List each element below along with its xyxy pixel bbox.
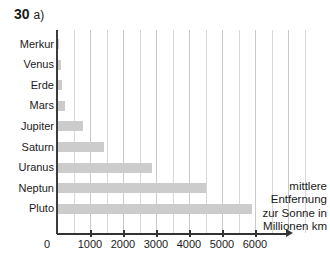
axis-annotation-line-0: mittlere [231, 180, 327, 193]
axis-tick [156, 230, 158, 237]
bar-pluto [57, 204, 252, 214]
category-labels: MerkurVenusErdeMarsJupiterSaturnUranusNe… [0, 0, 54, 255]
axis-tick [222, 230, 224, 237]
category-label-uranus: Uranus [0, 162, 54, 173]
category-label-saturn: Saturn [0, 142, 54, 153]
axis-tick [123, 230, 125, 237]
category-label-neptun: Neptun [0, 183, 54, 194]
grid-line [107, 30, 108, 233]
grid-line [156, 30, 157, 233]
axis-annotation-line-2: zur Sonne in [231, 207, 327, 220]
grid-line [74, 30, 75, 233]
grid-line [140, 30, 141, 233]
category-label-jupiter: Jupiter [0, 121, 54, 132]
category-label-erde: Erde [0, 80, 54, 91]
bar-erde [57, 80, 62, 90]
category-label-merkur: Merkur [0, 39, 54, 50]
category-label-mars: Mars [0, 100, 54, 111]
bar-venus [57, 60, 61, 70]
grid-line [90, 30, 91, 233]
category-label-pluto: Pluto [0, 203, 54, 214]
chart-figure: 30a) MerkurVenusErdeMarsJupiterSaturnUra… [0, 0, 330, 255]
bar-jupiter [57, 121, 83, 131]
axis-tick-label: 6000 [233, 238, 277, 250]
grid-line [222, 30, 223, 233]
bar-saturn [57, 142, 104, 152]
axis-tick-label-zero: 0 [44, 238, 50, 250]
grid-line [123, 30, 124, 233]
grid-line [173, 30, 174, 233]
axis-annotation: mittlereEntfernungzur Sonne inMillionen … [231, 180, 327, 234]
axis-tick [189, 230, 191, 237]
grid-line [189, 30, 190, 233]
axis-tick [90, 230, 92, 237]
axis-annotation-line-1: Entfernung [231, 193, 327, 206]
category-axis-line [56, 30, 58, 234]
bar-mars [57, 101, 65, 111]
bar-neptun [57, 183, 206, 193]
category-label-venus: Venus [0, 59, 54, 70]
grid-line [206, 30, 207, 233]
bar-uranus [57, 163, 152, 173]
axis-annotation-line-3: Millionen km [231, 220, 327, 233]
